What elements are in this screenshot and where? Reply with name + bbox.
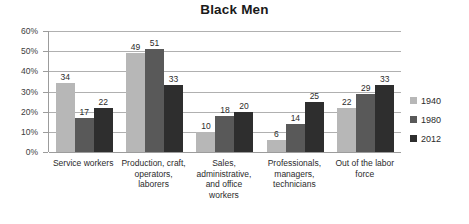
bar [267,140,286,152]
y-axis-tick-label: 50% [21,46,38,56]
legend-item[interactable]: 2012 [410,131,468,146]
bar [305,102,324,152]
bar [234,112,253,152]
x-axis-category-label-line: managers, [254,169,334,180]
bar-chart: Black Men 0%10%20%30%40%50%60% 341722495… [0,0,469,224]
y-axis-tick-label: 0% [26,147,38,157]
bar-value-label: 6 [264,129,288,139]
bar-value-label: 25 [302,91,326,101]
x-axis-category-label-line: Service workers [43,158,123,169]
x-axis-category-label: Sales,administrative,and officeworkers [184,158,264,200]
x-axis-category-label-line: Out of the labor [325,158,405,169]
bar [126,53,145,152]
bar [75,118,94,152]
x-axis-category-label-line: laborers [113,179,193,190]
bar [337,108,356,152]
bar [94,108,113,152]
chart-legend: 194019802012 [410,93,468,150]
y-axis-tick-label: 60% [21,26,38,36]
bar-value-label: 17 [72,107,96,117]
bar-value-label: 14 [283,113,307,123]
x-axis-category-label-line: Professionals, [254,158,334,169]
x-axis-category-label-line: and office [184,179,264,190]
bar [196,132,215,152]
legend-item[interactable]: 1940 [410,93,468,108]
legend-swatch-icon [410,135,417,142]
bar-group: 61425 [260,31,330,152]
y-axis-tick-label: 20% [21,107,38,117]
x-axis-category-label-line: operators, [113,169,193,180]
legend-label: 2012 [421,134,441,144]
bar-value-label: 20 [232,101,256,111]
x-axis-category-label-line: force [325,169,405,180]
x-axis-category-label: Professionals,managers,technicians [254,158,334,190]
bar-value-label: 22 [335,97,359,107]
bar-value-label: 10 [194,121,218,131]
x-axis-category-label: Service workers [43,158,123,169]
bar [356,94,375,152]
x-axis-category-label-line: Production, craft, [113,158,193,169]
bar-group: 341722 [49,31,119,152]
legend-label: 1980 [421,115,441,125]
bar [286,124,305,152]
legend-label: 1940 [421,96,441,106]
bar-value-label: 33 [373,74,397,84]
x-axis-category-label-line: Sales, [184,158,264,169]
bar [145,49,164,152]
y-axis-tick-mark [43,152,48,153]
y-axis-tick-label: 30% [21,87,38,97]
x-axis-category-label: Production, craft,operators,laborers [113,158,193,190]
bar-value-label: 51 [143,38,167,48]
bar-value-label: 22 [91,97,115,107]
x-axis-category-label: Out of the laborforce [325,158,405,179]
bar [375,85,394,152]
x-axis-category-label-line: workers [184,190,264,201]
legend-swatch-icon [410,116,417,123]
x-axis-category-label-line: technicians [254,179,334,190]
bar-group: 222933 [331,31,401,152]
y-axis: 0%10%20%30%40%50%60% [0,31,44,152]
bar-value-label: 33 [162,74,186,84]
legend-item[interactable]: 1980 [410,112,468,127]
chart-title: Black Men [0,2,469,17]
bar-group: 495133 [119,31,189,152]
gridline [49,152,401,153]
legend-swatch-icon [410,97,417,104]
plot-area: 34172249513310182061425222933 [48,31,400,152]
y-axis-tick-label: 10% [21,127,38,137]
bar [215,116,234,152]
x-axis-category-label-line: administrative, [184,169,264,180]
y-axis-tick-label: 40% [21,66,38,76]
bar [56,83,75,152]
bar-group: 101820 [190,31,260,152]
bar-value-label: 34 [53,72,77,82]
bar [164,85,183,152]
